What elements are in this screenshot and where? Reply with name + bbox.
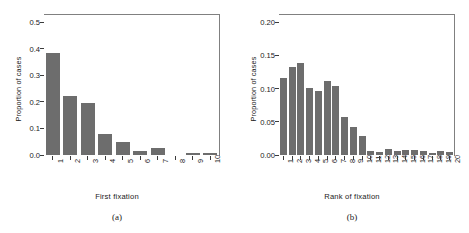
x-tick-label: 4 (108, 159, 117, 163)
bar (350, 127, 357, 155)
bar (116, 142, 130, 155)
bar (332, 86, 339, 155)
y-tick-label: 0.15 (260, 51, 275, 60)
y-tick-mark (275, 155, 279, 156)
x-tick-mark (105, 156, 106, 160)
x-tick-mark (344, 156, 345, 160)
y-tick-label: 0.0 (29, 151, 40, 160)
figure-two-panel-bar-charts: Proportion of cases 0.00.10.20.30.40.5 1… (0, 0, 469, 233)
x-tick-mark (423, 156, 424, 160)
x-tick-mark (405, 156, 406, 160)
bar (81, 103, 95, 155)
x-tick-mark (440, 156, 441, 160)
y-tick-label: 0.3 (29, 71, 40, 80)
bar (315, 91, 322, 155)
panel-a-x-axis-title: First fixation (0, 192, 234, 201)
y-tick-mark (40, 128, 44, 129)
y-tick-mark (275, 121, 279, 122)
x-tick-label: 20 (453, 155, 462, 163)
bar (98, 134, 112, 155)
x-tick-mark (370, 156, 371, 160)
bar (306, 88, 313, 155)
y-tick-mark (40, 22, 44, 23)
x-tick-label: 10 (213, 155, 222, 163)
x-tick-mark (210, 156, 211, 160)
y-tick-mark (40, 155, 44, 156)
y-tick-label: 0.4 (29, 44, 40, 53)
x-tick-mark (432, 156, 433, 160)
y-tick-label: 0.05 (260, 117, 275, 126)
bar (289, 67, 296, 155)
bar (341, 117, 348, 155)
panel-b: Proportion of cases 0.000.050.100.150.20… (235, 0, 469, 233)
x-tick-mark (70, 156, 71, 160)
panel-a-bars (44, 22, 219, 155)
x-tick-mark (300, 156, 301, 160)
x-tick-mark (449, 156, 450, 160)
x-tick-label: 5 (126, 159, 135, 163)
bar (280, 78, 287, 155)
x-tick-mark (362, 156, 363, 160)
x-tick-mark (397, 156, 398, 160)
bar (359, 136, 366, 155)
x-tick-mark (122, 156, 123, 160)
y-tick-label: 0.20 (260, 18, 275, 27)
x-tick-mark (318, 156, 319, 160)
y-tick-mark (275, 22, 279, 23)
x-tick-mark (327, 156, 328, 160)
bar (324, 81, 331, 155)
y-tick-label: 0.2 (29, 97, 40, 106)
x-tick-mark (175, 156, 176, 160)
bar (133, 151, 147, 155)
y-tick-label: 0.5 (29, 18, 40, 27)
x-tick-label: 2 (73, 159, 82, 163)
panel-b-x-axis-title: Rank of fixation (235, 192, 469, 201)
panel-b-caption: (b) (235, 212, 469, 222)
y-tick-label: 0.10 (260, 84, 275, 93)
x-tick-label: 8 (178, 159, 187, 163)
x-tick-label: 7 (161, 159, 170, 163)
x-tick-mark (192, 156, 193, 160)
x-tick-label: 9 (196, 159, 205, 163)
x-tick-mark (379, 156, 380, 160)
panel-a: Proportion of cases 0.00.10.20.30.40.5 1… (0, 0, 234, 233)
x-tick-mark (388, 156, 389, 160)
x-tick-label: 3 (91, 159, 100, 163)
x-tick-label: 1 (56, 159, 65, 163)
panel-a-caption: (a) (0, 212, 234, 222)
x-tick-mark (140, 156, 141, 160)
bar (297, 63, 304, 155)
x-tick-mark (353, 156, 354, 160)
bar (151, 148, 165, 155)
y-tick-mark (40, 48, 44, 49)
panel-b-bars (279, 22, 454, 155)
x-tick-mark (309, 156, 310, 160)
y-tick-mark (275, 55, 279, 56)
bar (46, 53, 60, 155)
x-tick-label: 6 (143, 159, 152, 163)
x-tick-mark (414, 156, 415, 160)
y-tick-mark (40, 101, 44, 102)
x-tick-mark (52, 156, 53, 160)
x-tick-mark (283, 156, 284, 160)
x-tick-mark (335, 156, 336, 160)
bar (186, 153, 200, 155)
y-tick-label: 0.1 (29, 124, 40, 133)
x-tick-mark (87, 156, 88, 160)
y-tick-mark (40, 75, 44, 76)
bar (63, 96, 77, 155)
x-tick-mark (292, 156, 293, 160)
y-tick-label: 0.00 (260, 151, 275, 160)
y-tick-mark (275, 88, 279, 89)
x-tick-mark (157, 156, 158, 160)
